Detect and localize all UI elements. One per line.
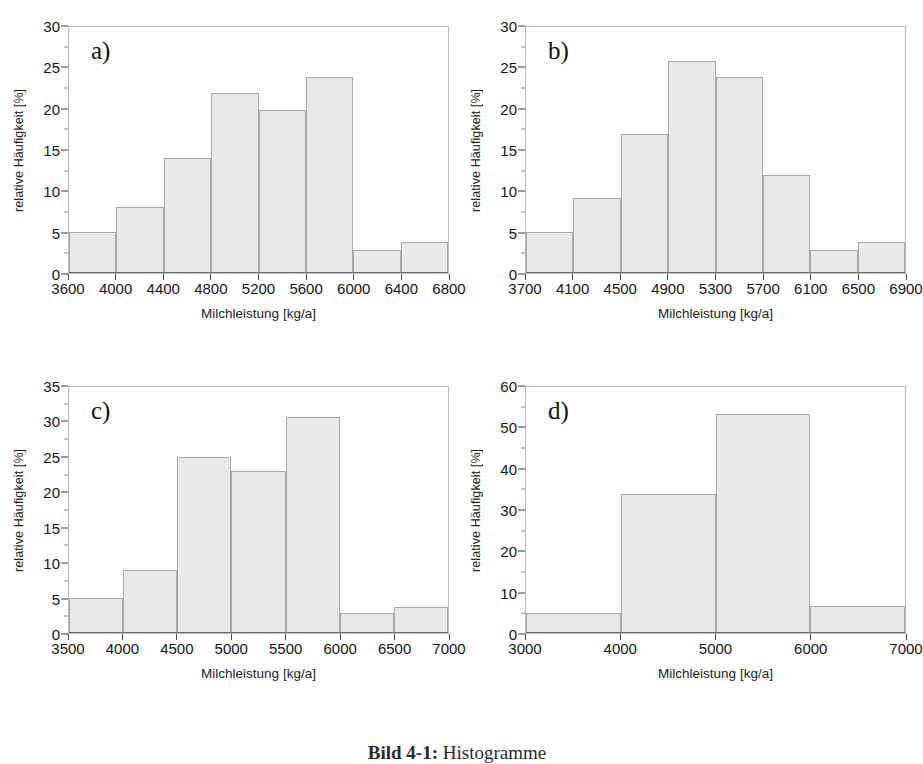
y-tick-mark bbox=[61, 456, 68, 457]
y-axis-ticks-a: 051015202530 bbox=[26, 26, 68, 274]
y-tick-mark bbox=[518, 150, 525, 151]
x-tick-label: 4500 bbox=[604, 280, 637, 297]
y-tick-label: 20 bbox=[43, 100, 60, 117]
x-tick-label: 6000 bbox=[323, 640, 356, 657]
histogram-bar bbox=[259, 110, 306, 273]
x-axis-title-d: Milchleistung [kg/a] bbox=[525, 666, 906, 681]
panel-b: relative Häufigkeit [%] 051015202530 b) … bbox=[465, 26, 914, 378]
y-tick-label: 15 bbox=[43, 519, 60, 536]
y-tick-label: 10 bbox=[43, 555, 60, 572]
plot-area-a: a) bbox=[68, 26, 449, 274]
y-tick-label: 60 bbox=[500, 378, 517, 395]
x-tick-label: 6400 bbox=[385, 280, 418, 297]
histogram-bar bbox=[621, 134, 668, 273]
x-tick-label: 4000 bbox=[604, 640, 637, 657]
x-axis-title-a: Milchleistung [kg/a] bbox=[68, 306, 449, 321]
y-tick-mark bbox=[61, 67, 68, 68]
histogram-bar bbox=[668, 61, 715, 273]
x-axis-title-b: Milchleistung [kg/a] bbox=[525, 306, 906, 321]
x-tick-label: 6800 bbox=[432, 280, 465, 297]
y-tick-mark bbox=[518, 232, 525, 233]
x-axis-title-c: Milchleistung [kg/a] bbox=[68, 666, 449, 681]
y-tick-label: 20 bbox=[500, 543, 517, 560]
histogram-bar bbox=[69, 598, 123, 633]
histogram-bar bbox=[353, 250, 400, 273]
histogram-bar bbox=[286, 417, 340, 633]
y-tick-label: 30 bbox=[43, 413, 60, 430]
y-tick-mark bbox=[61, 598, 68, 599]
caption-text: Histogramme bbox=[443, 742, 546, 763]
y-tick-mark bbox=[518, 427, 525, 428]
y-tick-mark bbox=[518, 108, 525, 109]
histogram-bar bbox=[231, 471, 285, 633]
x-tick-label: 5500 bbox=[269, 640, 302, 657]
figure-caption: Bild 4-1: Histogramme bbox=[0, 742, 914, 764]
histogram-bar bbox=[810, 250, 857, 273]
histogram-bar bbox=[340, 613, 394, 633]
x-tick-label: 5300 bbox=[699, 280, 732, 297]
histogram-bar bbox=[394, 607, 448, 633]
bars-d bbox=[526, 387, 905, 633]
x-tick-label: 3000 bbox=[508, 640, 541, 657]
panel-c: relative Häufigkeit [%] 05101520253035 c… bbox=[8, 386, 457, 720]
x-tick-label: 5200 bbox=[242, 280, 275, 297]
plot-area-b: b) bbox=[525, 26, 906, 274]
x-tick-label: 3700 bbox=[508, 280, 541, 297]
x-tick-label: 5600 bbox=[289, 280, 322, 297]
bars-c bbox=[69, 387, 448, 633]
histogram-bar bbox=[306, 77, 353, 273]
histogram-bar bbox=[810, 606, 905, 633]
x-axis-line-b bbox=[526, 272, 905, 273]
x-tick-label: 6500 bbox=[842, 280, 875, 297]
y-tick-label: 15 bbox=[43, 142, 60, 159]
histogram-bar bbox=[621, 494, 716, 633]
histogram-bar bbox=[526, 613, 621, 634]
y-tick-mark bbox=[61, 26, 68, 27]
histogram-bar bbox=[716, 414, 811, 633]
histogram-bar bbox=[69, 232, 116, 273]
histogram-bar bbox=[116, 207, 163, 273]
y-tick-label: 30 bbox=[43, 18, 60, 35]
histogram-bar bbox=[573, 198, 620, 273]
y-tick-label: 15 bbox=[500, 142, 517, 159]
y-tick-label: 5 bbox=[509, 224, 517, 241]
y-tick-label: 25 bbox=[43, 59, 60, 76]
y-tick-mark bbox=[61, 563, 68, 564]
x-tick-label: 5000 bbox=[215, 640, 248, 657]
x-tick-label: 6100 bbox=[794, 280, 827, 297]
y-tick-mark bbox=[61, 386, 68, 387]
x-tick-label: 4900 bbox=[651, 280, 684, 297]
histogram-bar bbox=[177, 457, 231, 633]
y-tick-label: 30 bbox=[500, 502, 517, 519]
x-axis-ticklabels-c: 35004000450050005500600065007000 bbox=[68, 640, 449, 662]
y-tick-mark bbox=[518, 191, 525, 192]
y-tick-mark bbox=[518, 468, 525, 469]
y-tick-label: 5 bbox=[52, 590, 60, 607]
x-axis-ticklabels-a: 360040004400480052005600600064006800 bbox=[68, 280, 449, 302]
histogram-bar bbox=[123, 570, 177, 633]
plot-area-c: c) bbox=[68, 386, 449, 634]
x-tick-label: 3500 bbox=[51, 640, 84, 657]
bars-a bbox=[69, 27, 448, 273]
y-tick-label: 40 bbox=[500, 460, 517, 477]
x-tick-label: 4500 bbox=[160, 640, 193, 657]
x-tick-label: 4000 bbox=[99, 280, 132, 297]
x-axis-line-d bbox=[526, 632, 905, 633]
x-tick-label: 4400 bbox=[147, 280, 180, 297]
x-tick-label: 5000 bbox=[699, 640, 732, 657]
x-tick-label: 7000 bbox=[889, 640, 922, 657]
y-axis-ticks-d: 0102030405060 bbox=[483, 386, 525, 634]
y-tick-mark bbox=[518, 26, 525, 27]
y-tick-mark bbox=[61, 527, 68, 528]
histogram-bar bbox=[526, 232, 573, 273]
histogram-bar bbox=[858, 242, 905, 273]
bars-b bbox=[526, 27, 905, 273]
y-tick-label: 20 bbox=[500, 100, 517, 117]
y-tick-mark bbox=[61, 421, 68, 422]
y-tick-label: 50 bbox=[500, 419, 517, 436]
histogram-bar bbox=[716, 77, 763, 273]
x-tick-label: 4000 bbox=[106, 640, 139, 657]
y-tick-mark bbox=[518, 592, 525, 593]
y-tick-label: 30 bbox=[500, 18, 517, 35]
y-tick-label: 10 bbox=[500, 183, 517, 200]
